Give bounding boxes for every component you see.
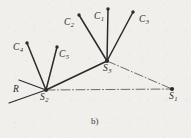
edge-s3-s1: [107, 61, 172, 89]
label-c4-sub: 4: [20, 46, 23, 53]
edge-c1-s3: [107, 9, 108, 61]
label-c4: C4: [13, 43, 23, 53]
figure-caption: b): [91, 117, 99, 126]
label-c3: C3: [139, 15, 149, 25]
edge-c3-s3: [107, 12, 133, 61]
label-c1-base: C: [94, 11, 100, 21]
node-dot-c1: [106, 7, 109, 10]
label-c5-base: C: [59, 49, 65, 59]
label-s1-sub: 1: [174, 95, 177, 102]
label-c4-base: C: [13, 42, 19, 52]
label-s3-sub: 3: [108, 67, 111, 74]
label-c3-base: C: [139, 14, 145, 24]
label-c2: C2: [64, 18, 74, 28]
edge-s2-s1: [46, 89, 172, 90]
label-s3: S3: [103, 64, 111, 74]
label-c5-sub: 5: [66, 53, 69, 60]
node-dot-c3: [131, 10, 134, 13]
node-dot-c4: [25, 41, 28, 44]
label-s2: S2: [40, 93, 48, 103]
label-c2-base: C: [64, 17, 70, 27]
node-dot-c2: [77, 13, 80, 16]
edge-s2-s3: [46, 61, 107, 90]
figure-container: C1 C2 C3 C4 C5 S1 S2 S3 R b): [0, 0, 191, 138]
label-r: R: [13, 85, 19, 95]
label-s2-sub: 2: [45, 96, 48, 103]
label-s1: S1: [169, 92, 177, 102]
label-c5: C5: [59, 50, 69, 60]
label-r-base: R: [13, 84, 19, 94]
edge-c5-s2: [46, 47, 57, 90]
label-c3-sub: 3: [146, 18, 149, 25]
label-c1-sub: 1: [101, 15, 104, 22]
edge-c4-s2: [27, 43, 46, 90]
label-c2-sub: 2: [71, 21, 74, 28]
label-c1: C1: [94, 12, 104, 22]
